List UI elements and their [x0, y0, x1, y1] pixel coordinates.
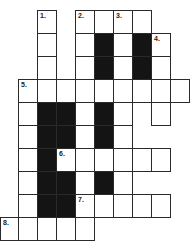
crossword-cell[interactable]: 4.: [151, 33, 171, 57]
crossword-cell[interactable]: 3.: [113, 10, 133, 34]
clue-number: 1.: [40, 12, 46, 19]
crossword-cell[interactable]: [56, 79, 76, 103]
crossword-cell[interactable]: [18, 102, 38, 126]
clue-number: 6.: [59, 150, 65, 157]
crossword-cell[interactable]: [75, 102, 95, 126]
crossword-block: [56, 102, 76, 126]
crossword-cell[interactable]: 6.: [56, 148, 76, 172]
crossword-cell[interactable]: [75, 33, 95, 57]
crossword-block: [132, 33, 152, 57]
clue-number: 3.: [116, 12, 122, 19]
crossword-block: [37, 171, 57, 195]
crossword-block: [94, 33, 114, 57]
crossword-cell[interactable]: [113, 33, 133, 57]
crossword-block: [37, 125, 57, 149]
crossword-cell[interactable]: [151, 194, 171, 218]
clue-number: 7.: [78, 196, 84, 203]
crossword-cell[interactable]: [75, 56, 95, 80]
crossword-block: [94, 56, 114, 80]
crossword-cell[interactable]: [75, 148, 95, 172]
crossword-cell[interactable]: [113, 102, 133, 126]
crossword-cell[interactable]: [37, 33, 57, 57]
crossword-cell[interactable]: [75, 125, 95, 149]
crossword-block: [94, 125, 114, 149]
crossword-cell[interactable]: [94, 79, 114, 103]
crossword-cell[interactable]: 8.: [0, 217, 19, 241]
crossword-cell[interactable]: [75, 79, 95, 103]
crossword-cell[interactable]: [132, 10, 152, 34]
crossword-cell[interactable]: [151, 148, 171, 172]
crossword-cell[interactable]: [94, 148, 114, 172]
crossword-cell[interactable]: [56, 217, 76, 241]
crossword-cell[interactable]: [113, 148, 133, 172]
crossword-cell[interactable]: [113, 56, 133, 80]
crossword-cell[interactable]: [94, 194, 114, 218]
crossword-block: [56, 125, 76, 149]
crossword-cell[interactable]: [113, 171, 133, 195]
crossword-cell[interactable]: 2.: [75, 10, 95, 34]
clue-number: 2.: [78, 12, 84, 19]
clue-number: 4.: [154, 35, 160, 42]
crossword-cell[interactable]: [18, 171, 38, 195]
crossword-cell[interactable]: [18, 194, 38, 218]
crossword-block: [132, 56, 152, 80]
crossword-cell[interactable]: [18, 217, 38, 241]
crossword-cell[interactable]: [18, 125, 38, 149]
crossword-block: [37, 194, 57, 218]
crossword-cell[interactable]: [37, 56, 57, 80]
crossword-block: [37, 102, 57, 126]
crossword-cell[interactable]: 7.: [75, 194, 95, 218]
crossword-cell[interactable]: [94, 10, 114, 34]
crossword-cell[interactable]: [37, 79, 57, 103]
crossword-cell[interactable]: [170, 79, 190, 103]
clue-number: 8.: [3, 219, 9, 226]
crossword-cell[interactable]: [75, 217, 95, 241]
crossword-block: [56, 194, 76, 218]
crossword-cell[interactable]: 5.: [18, 79, 38, 103]
crossword-cell[interactable]: [75, 171, 95, 195]
crossword-cell[interactable]: [132, 79, 152, 103]
crossword-block: [94, 171, 114, 195]
crossword-cell[interactable]: [151, 102, 171, 126]
crossword-cell[interactable]: [113, 79, 133, 103]
crossword-block: [37, 148, 57, 172]
clue-number: 5.: [21, 81, 27, 88]
crossword-grid: 1.2.3.4.5.6.7.8.: [0, 0, 193, 246]
crossword-cell[interactable]: [151, 79, 171, 103]
crossword-cell[interactable]: [37, 217, 57, 241]
crossword-cell[interactable]: [132, 148, 152, 172]
crossword-cell[interactable]: [113, 194, 133, 218]
crossword-cell[interactable]: [18, 148, 38, 172]
crossword-block: [94, 102, 114, 126]
crossword-cell[interactable]: [151, 56, 171, 80]
crossword-cell[interactable]: 1.: [37, 10, 57, 34]
crossword-cell[interactable]: [113, 125, 133, 149]
crossword-block: [56, 171, 76, 195]
crossword-cell[interactable]: [132, 194, 152, 218]
